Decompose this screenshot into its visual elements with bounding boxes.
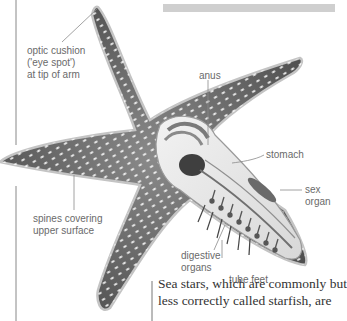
paragraph-line: less correctly called starfish, are [158,292,338,309]
internal-anatomy-cutaway [156,116,302,259]
paragraph-line: Sea stars, which are commonly but [158,275,338,292]
stomach-shape [179,154,205,176]
label-spines: spines covering upper surface [33,213,102,237]
label-anus: anus [199,70,221,82]
label-line: organs [181,262,220,274]
label-line: ('eye spot') [27,57,85,69]
label-line: at tip of arm [27,69,85,81]
label-line: digestive [181,250,220,262]
label-line: optic cushion [27,45,85,57]
label-line: upper surface [33,225,102,237]
label-optic-cushion: optic cushion ('eye spot') at tip of arm [27,45,85,81]
label-line: sex [305,184,331,196]
label-line: spines covering [33,213,102,225]
label-line: organ [305,196,331,208]
body-paragraph: Sea stars, which are commonly but less c… [158,275,338,309]
label-stomach: stomach [266,149,304,161]
label-sex-organ: sex organ [305,184,331,208]
label-digestive-organs: digestive organs [181,250,220,274]
